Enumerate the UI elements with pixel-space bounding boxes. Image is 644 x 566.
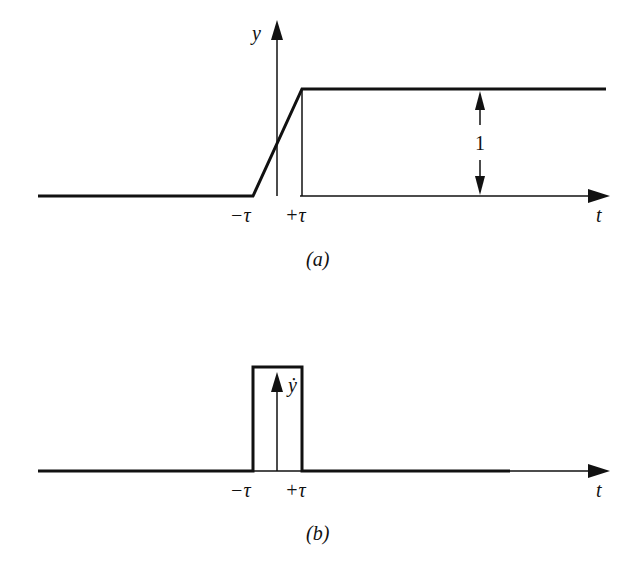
figure-b: ẏ t −τ +τ (b) [38, 367, 610, 545]
y-dot-axis-label-b: ẏ [286, 374, 297, 397]
tick-plus-tau-b: +τ [285, 479, 306, 501]
y-axis-arrow-icon [271, 20, 283, 40]
t-axis-arrow-icon [588, 464, 610, 478]
t-axis-arrow-icon [588, 189, 610, 203]
ramp-and-pulse-diagram: 1 y t −τ +τ (a) ẏ t −τ +τ (b) [0, 0, 644, 566]
tick-minus-tau-a: −τ [230, 204, 251, 226]
t-axis-label-b: t [596, 479, 602, 501]
t-axis-label-a: t [596, 204, 602, 226]
tick-minus-tau-b: −τ [230, 479, 251, 501]
dimension-arrow-up-icon [475, 91, 485, 110]
ramp-signal [38, 89, 606, 196]
y-axis-label-a: y [250, 22, 261, 45]
height-label: 1 [475, 132, 485, 154]
y-axis-arrow-icon [271, 372, 283, 392]
dimension-arrow-down-icon [475, 176, 485, 195]
caption-a: (a) [306, 248, 330, 271]
figure-a: 1 y t −τ +τ (a) [38, 20, 610, 271]
tick-plus-tau-a: +τ [285, 204, 306, 226]
caption-b: (b) [306, 522, 330, 545]
